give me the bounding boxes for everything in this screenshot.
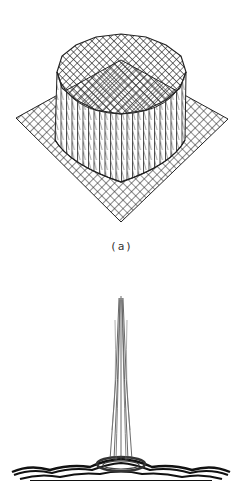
figure-a-cylinder-surface bbox=[0, 0, 243, 235]
central-peak bbox=[110, 296, 132, 460]
figure-a-caption: (a) bbox=[0, 240, 243, 253]
airy-peak-surface-plot bbox=[0, 260, 243, 481]
cylinder-surface-plot bbox=[0, 0, 243, 235]
figure-b-peak-surface bbox=[0, 260, 243, 481]
